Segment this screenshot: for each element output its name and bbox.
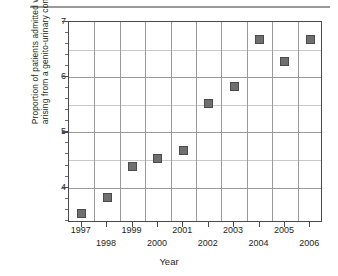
y-axis-title-line1: Proportion of patients admitted with sho… bbox=[30, 0, 40, 124]
gridline-v-2004 bbox=[247, 22, 248, 221]
x-tick-label-2003: 2003 bbox=[216, 225, 250, 235]
gridline-h-5.5 bbox=[69, 105, 321, 106]
gridline-h-4 bbox=[69, 188, 321, 189]
gridline-v-2006 bbox=[298, 22, 299, 221]
data-point-1999 bbox=[128, 162, 137, 171]
data-point-2000 bbox=[153, 154, 162, 163]
gridline-v-2003 bbox=[221, 22, 222, 221]
y-axis-title-line2: arising from a genito-urinary condition … bbox=[40, 0, 50, 124]
x-tick-label-2002: 2002 bbox=[191, 238, 225, 248]
data-point-2003 bbox=[230, 82, 239, 91]
data-point-2002 bbox=[204, 99, 213, 108]
data-point-1998 bbox=[103, 193, 112, 202]
x-tick-mark-2002 bbox=[208, 222, 209, 227]
x-tick-label-2001: 2001 bbox=[165, 225, 199, 235]
x-tick-mark-2000 bbox=[157, 222, 158, 227]
x-tick-label-2004: 2004 bbox=[242, 238, 276, 248]
x-axis-title: Year bbox=[0, 256, 338, 267]
data-point-2005 bbox=[280, 57, 289, 66]
x-tick-label-1998: 1998 bbox=[89, 238, 123, 248]
x-tick-mark-2006 bbox=[309, 222, 310, 227]
x-tick-label-2005: 2005 bbox=[267, 225, 301, 235]
header-divider bbox=[30, 6, 330, 8]
gridline-v-2002 bbox=[196, 22, 197, 221]
x-tick-label-2006: 2006 bbox=[292, 238, 326, 248]
x-tick-label-1997: 1997 bbox=[64, 225, 98, 235]
x-tick-mark-2004 bbox=[259, 222, 260, 227]
gridline-v-2005 bbox=[272, 22, 273, 221]
gridline-v-1998 bbox=[94, 22, 95, 221]
gridline-v-2000 bbox=[145, 22, 146, 221]
data-point-1997 bbox=[77, 209, 86, 218]
gridline-v-1999 bbox=[120, 22, 121, 221]
x-tick-label-1999: 1999 bbox=[115, 225, 149, 235]
gridline-v-2001 bbox=[171, 22, 172, 221]
plot-area bbox=[68, 21, 322, 222]
data-point-2004 bbox=[255, 35, 264, 44]
data-point-2006 bbox=[306, 35, 315, 44]
gridline-h-4.5 bbox=[69, 160, 321, 161]
gridline-h-6 bbox=[69, 77, 321, 78]
gridline-h-6.5 bbox=[69, 50, 321, 51]
data-point-2001 bbox=[179, 146, 188, 155]
chart-figure: Proportion of patients admitted with sho… bbox=[0, 0, 338, 276]
x-tick-mark-1998 bbox=[106, 222, 107, 227]
gridline-h-5 bbox=[69, 132, 321, 133]
x-tick-label-2000: 2000 bbox=[140, 238, 174, 248]
